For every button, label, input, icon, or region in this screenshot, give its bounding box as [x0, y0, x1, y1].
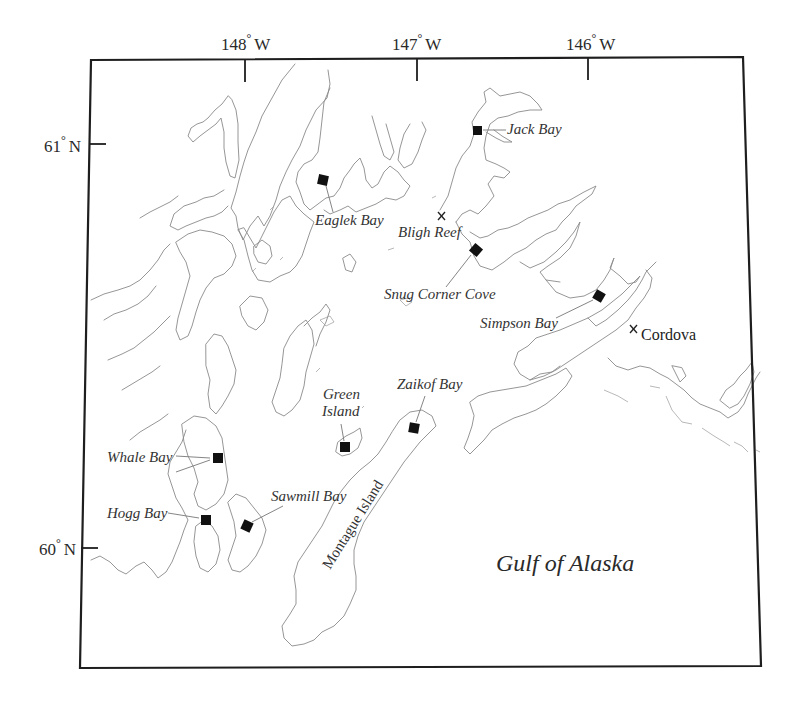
label-bligh-reef: Bligh Reef [398, 224, 463, 240]
coast-knight-island [272, 320, 314, 416]
marker-jack-bay[interactable] [473, 126, 482, 135]
coast-jack-bay-fjord [440, 88, 542, 222]
coast-tatitlek [456, 186, 596, 270]
marker-zaikof-bay[interactable] [408, 422, 420, 434]
leader-sawmill-bay [252, 506, 283, 522]
coast-naked-island [254, 240, 356, 272]
longitude-ticks: 148°W 147°W 146°W [221, 31, 616, 82]
coast-west-fjords [91, 244, 170, 360]
marker-whale-bay[interactable] [213, 453, 223, 463]
cordova-x-icon[interactable] [630, 325, 637, 333]
coast-latouche-island [228, 494, 266, 572]
leader-zaikof-bay [416, 396, 425, 422]
map-frame [80, 57, 761, 668]
coast-perry-island [240, 296, 268, 330]
leader-eaglek-bay [326, 186, 333, 212]
coast-elrington-island [194, 520, 220, 572]
label-simpson-bay: Simpson Bay [480, 315, 558, 331]
coast-long-bay [372, 116, 394, 160]
leader-simpson-bay [556, 300, 593, 318]
label-snug-corner-cove: Snug Corner Cove [384, 286, 496, 302]
leader-whale-bay-2 [176, 460, 210, 472]
coast-hinchinbrook-south [530, 366, 560, 380]
coast-west-islands [176, 230, 236, 340]
lat-label-61n: 61°N [44, 133, 81, 156]
coast-eaglek-peninsula [238, 196, 314, 282]
coast-barrier-islands [604, 386, 760, 452]
coast-copper-river-delta [672, 362, 754, 408]
coast-chenega-area [206, 334, 236, 414]
bligh-reef-x-icon[interactable] [438, 212, 445, 220]
coast-knight-island-east [304, 304, 330, 346]
label-whale-bay: Whale Bay [107, 449, 173, 465]
label-jack-bay: Jack Bay [507, 121, 562, 137]
marker-sawmill-bay[interactable] [240, 519, 253, 532]
label-gulf-of-alaska: Gulf of Alaska [496, 550, 634, 576]
marker-green-island[interactable] [340, 442, 350, 452]
marker-eaglek-bay[interactable] [317, 174, 329, 186]
coast-unakwik [188, 96, 239, 178]
label-cordova: Cordova [641, 326, 696, 343]
coast-wells-passage [170, 190, 228, 230]
lon-label-148w: 148°W [221, 31, 271, 54]
coast-west-inlets [122, 196, 178, 440]
coast-hinchinbrook-island [464, 368, 572, 454]
label-zaikof-bay: Zaikof Bay [397, 376, 463, 392]
label-hogg-bay: Hogg Bay [106, 505, 168, 521]
leader-whale-bay [176, 456, 210, 458]
coastlines [91, 64, 760, 646]
lat-label-60n: 60°N [39, 536, 76, 559]
site-labels: Jack Bay Eaglek Bay Snug Corner Cove Sim… [106, 121, 562, 521]
latitude-ticks: 61°N 60°N [39, 133, 106, 559]
coast-southeast-mainland [608, 358, 760, 418]
label-eaglek-bay: Eaglek Bay [314, 212, 384, 228]
coast-north-small-fjords [398, 122, 426, 168]
coast-port-fidalgo [520, 222, 580, 282]
coast-college-fjord [296, 88, 410, 214]
lon-label-147w: 147°W [392, 31, 442, 54]
leader-snug-corner-cove [446, 255, 471, 287]
prince-william-sound-map: 148°W 147°W 146°W 61°N 60°N [0, 0, 794, 708]
leader-hogg-bay [168, 513, 199, 518]
lon-label-146w: 146°W [566, 31, 616, 54]
label-green-island-line2: Island [321, 403, 360, 419]
label-sawmill-bay: Sawmill Bay [271, 488, 347, 504]
label-green-island-line1: Green [323, 386, 360, 402]
marker-hogg-bay[interactable] [201, 515, 211, 525]
